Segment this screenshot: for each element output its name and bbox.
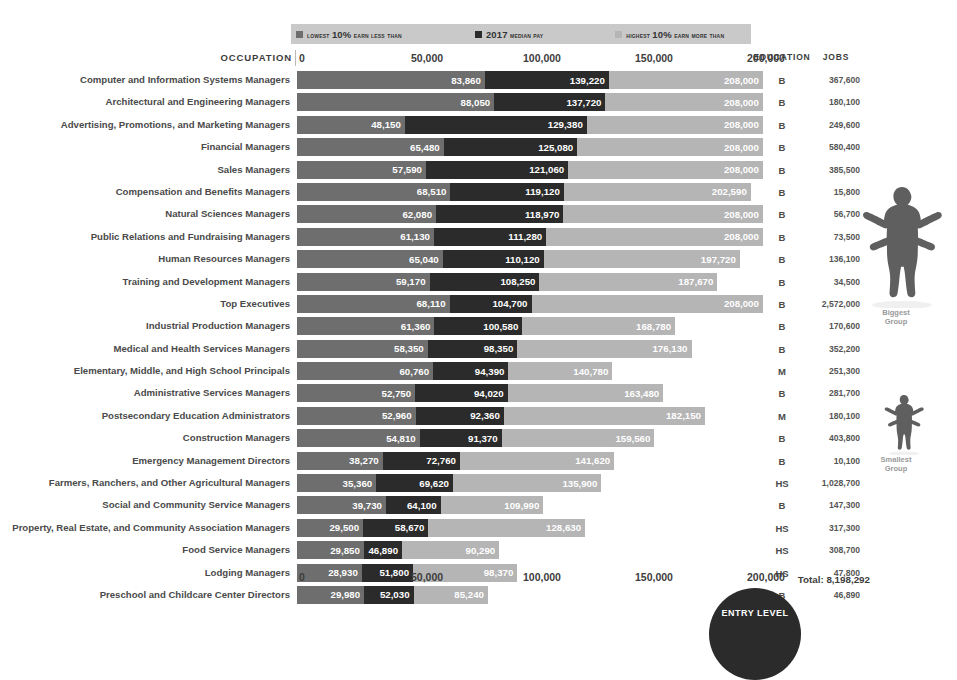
bar-group[interactable]: 90,29046,89029,850 <box>297 541 745 559</box>
jobs-value: 15,800 <box>802 187 860 197</box>
occupation-label: Farmers, Ranchers, and Other Agricultura… <box>10 477 290 488</box>
table-row[interactable]: Human Resources Managers197,720110,12065… <box>0 249 957 271</box>
table-row[interactable]: Food Service Managers90,29046,89029,850H… <box>0 540 957 562</box>
legend: lowest 10% earn less than2017 median pay… <box>291 24 751 44</box>
bar-group[interactable]: 128,63058,67029,500 <box>297 519 745 537</box>
bar-group[interactable]: 159,56091,37054,810 <box>297 429 745 447</box>
bar-group[interactable]: 141,62072,76038,270 <box>297 452 745 470</box>
occupation-label: Training and Development Managers <box>10 276 290 287</box>
axis-top-tick-4: 200,000 <box>747 52 785 64</box>
bar-group[interactable]: 197,720110,12065,040 <box>297 250 745 268</box>
bar-group[interactable]: 208,000137,72088,050 <box>297 93 745 111</box>
bar-group[interactable]: 109,99064,10039,730 <box>297 496 745 514</box>
table-row[interactable]: Natural Sciences Managers208,000118,9706… <box>0 204 957 226</box>
bar-group[interactable]: 176,13098,35058,350 <box>297 340 745 358</box>
bar-group[interactable]: 168,780100,58061,360 <box>297 317 745 335</box>
jobs-value: 352,200 <box>802 344 860 354</box>
occupation-label: Social and Community Service Managers <box>10 499 290 510</box>
jobs-value: 2,572,000 <box>802 299 860 309</box>
axis-top-tick-2: 100,000 <box>523 52 561 64</box>
bar-group[interactable]: 208,000121,06057,590 <box>297 161 745 179</box>
bar-segment-lowest[interactable]: 88,050 <box>297 93 494 111</box>
axis-top-tick-3: 150,000 <box>635 52 673 64</box>
bar-segment-lowest[interactable]: 62,080 <box>297 205 436 223</box>
jobs-value: 10,100 <box>802 456 860 466</box>
occupation-label: Human Resources Managers <box>10 253 290 264</box>
table-row[interactable]: Postsecondary Education Administrators18… <box>0 406 957 428</box>
table-row[interactable]: Social and Community Service Managers109… <box>0 495 957 517</box>
bar-segment-lowest[interactable]: 29,850 <box>297 541 364 559</box>
table-row[interactable]: Elementary, Middle, and High School Prin… <box>0 361 957 383</box>
bar-group[interactable]: 208,000129,38048,150 <box>297 116 745 134</box>
occupation-label: Top Executives <box>10 298 290 309</box>
occupation-label: Postsecondary Education Administrators <box>10 410 290 421</box>
bar-segment-lowest[interactable]: 68,110 <box>297 295 450 313</box>
bar-segment-lowest[interactable]: 65,040 <box>297 250 443 268</box>
bar-segment-lowest[interactable]: 65,480 <box>297 138 444 156</box>
occupation-label: Administrative Services Managers <box>10 387 290 398</box>
bar-group[interactable]: 135,90069,62035,360 <box>297 474 745 492</box>
bar-segment-lowest[interactable]: 68,510 <box>297 183 450 201</box>
bar-segment-lowest[interactable]: 83,860 <box>297 71 485 89</box>
table-row[interactable]: Public Relations and Fundraising Manager… <box>0 227 957 249</box>
bar-group[interactable]: 208,000111,28061,130 <box>297 228 745 246</box>
table-row[interactable]: Top Executives208,000104,70068,110B2,572… <box>0 294 957 316</box>
table-row[interactable]: Training and Development Managers187,670… <box>0 272 957 294</box>
bar-segment-lowest[interactable]: 29,500 <box>297 519 363 537</box>
bar-group[interactable]: 208,000104,70068,110 <box>297 295 745 313</box>
legend-swatch-icon <box>615 31 622 38</box>
bar-group[interactable]: 140,78094,39060,760 <box>297 362 745 380</box>
bar-group[interactable]: 85,24052,03029,980 <box>297 586 745 604</box>
bar-segment-lowest[interactable]: 35,360 <box>297 474 376 492</box>
occupation-label: Sales Managers <box>10 164 290 175</box>
table-row[interactable]: Industrial Production Managers168,780100… <box>0 316 957 338</box>
occupation-label: Natural Sciences Managers <box>10 208 290 219</box>
jobs-value: 317,300 <box>802 523 860 533</box>
bar-segment-lowest[interactable]: 38,270 <box>297 452 383 470</box>
bar-group[interactable]: 202,590119,12068,510 <box>297 183 745 201</box>
bar-segment-lowest[interactable]: 57,590 <box>297 161 426 179</box>
table-row[interactable]: Emergency Management Directors141,62072,… <box>0 451 957 473</box>
bar-group[interactable]: 208,000139,22083,860 <box>297 71 745 89</box>
bar-group[interactable]: 187,670108,25059,170 <box>297 273 745 291</box>
bar-segment-lowest[interactable]: 48,150 <box>297 116 405 134</box>
occupation-label: Architectural and Engineering Managers <box>10 96 290 107</box>
table-row[interactable]: Computer and Information Systems Manager… <box>0 70 957 92</box>
table-row[interactable]: Property, Real Estate, and Community Ass… <box>0 518 957 540</box>
bar-segment-lowest[interactable]: 54,810 <box>297 429 420 447</box>
bar-segment-lowest[interactable]: 52,960 <box>297 407 416 425</box>
jobs-value: 580,400 <box>802 142 860 152</box>
occupation-label: Computer and Information Systems Manager… <box>10 74 290 85</box>
jobs-value: 249,600 <box>802 120 860 130</box>
bar-segment-lowest[interactable]: 39,730 <box>297 496 386 514</box>
table-row[interactable]: Advertising, Promotions, and Marketing M… <box>0 115 957 137</box>
table-row[interactable]: Preschool and Childcare Center Directors… <box>0 585 957 607</box>
occupation-label: Medical and Health Services Managers <box>10 343 290 354</box>
jobs-value: 56,700 <box>802 209 860 219</box>
table-row[interactable]: Sales Managers208,000121,06057,590B385,5… <box>0 160 957 182</box>
bar-group[interactable]: 208,000125,08065,480 <box>297 138 745 156</box>
entry-level-badge-text: ENTRY LEVEL <box>721 608 788 618</box>
table-row[interactable]: Compensation and Benefits Managers202,59… <box>0 182 957 204</box>
bar-segment-lowest[interactable]: 52,750 <box>297 384 415 402</box>
person-silhouette-small-icon <box>884 393 924 455</box>
table-row[interactable]: Administrative Services Managers163,4809… <box>0 383 957 405</box>
bar-segment-lowest[interactable]: 58,350 <box>297 340 428 358</box>
bar-segment-lowest[interactable]: 29,980 <box>297 586 364 604</box>
table-row[interactable]: Medical and Health Services Managers176,… <box>0 339 957 361</box>
bar-segment-lowest[interactable]: 61,130 <box>297 228 434 246</box>
table-row[interactable]: Financial Managers208,000125,08065,480B5… <box>0 137 957 159</box>
jobs-value: 180,100 <box>802 97 860 107</box>
bar-segment-lowest[interactable]: 61,360 <box>297 317 434 335</box>
table-row[interactable]: Architectural and Engineering Managers20… <box>0 92 957 114</box>
legend-label: highest 10% earn more than <box>626 29 724 40</box>
bar-group[interactable]: 163,48094,02052,750 <box>297 384 745 402</box>
table-row[interactable]: Construction Managers159,56091,37054,810… <box>0 428 957 450</box>
axis-top: 050,000100,000150,000200,000 <box>0 52 957 66</box>
jobs-value: 73,500 <box>802 232 860 242</box>
bar-segment-lowest[interactable]: 60,760 <box>297 362 433 380</box>
bar-group[interactable]: 182,15092,36052,960 <box>297 407 745 425</box>
bar-segment-lowest[interactable]: 59,170 <box>297 273 430 291</box>
bar-group[interactable]: 208,000118,97062,080 <box>297 205 745 223</box>
table-row[interactable]: Farmers, Ranchers, and Other Agricultura… <box>0 473 957 495</box>
